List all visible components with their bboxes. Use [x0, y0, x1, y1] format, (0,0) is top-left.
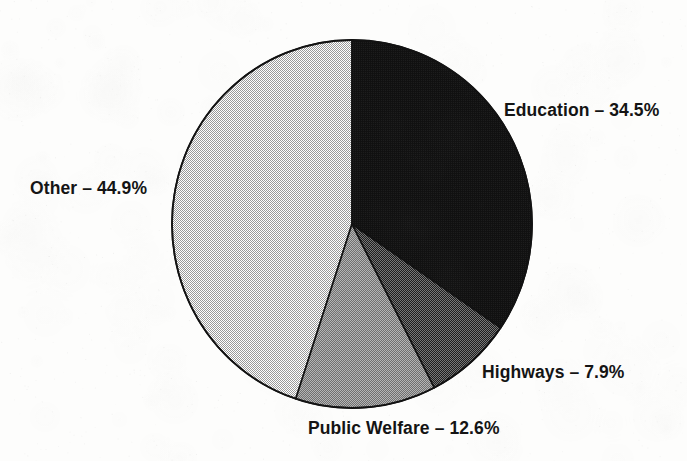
pie-label-public-welfare: Public Welfare – 12.6% [308, 418, 500, 439]
pie-slices-group [172, 40, 532, 408]
pie-label-other: Other – 44.9% [30, 178, 147, 199]
pie-label-education: Education – 34.5% [504, 100, 659, 121]
pie-chart-figure: Education – 34.5% Other – 44.9% Highways… [0, 0, 687, 461]
pie-chart-svg [0, 0, 687, 461]
pie-label-highways: Highways – 7.9% [482, 362, 625, 383]
